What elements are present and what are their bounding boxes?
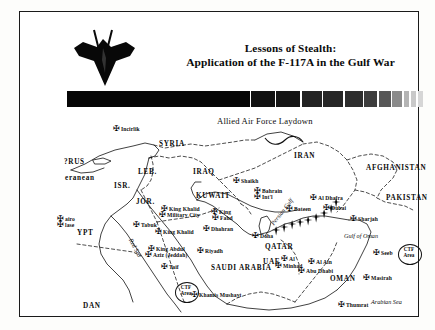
country-label: QATAR (265, 243, 293, 251)
airbase-label: Sharjah (358, 216, 378, 222)
airbase-label: Al (289, 256, 295, 262)
airbase-marker-icon: ✠ (338, 301, 345, 309)
ctf-area-label-line2: Area (400, 253, 418, 259)
ctf-area-label-line2: Area (177, 291, 195, 297)
airbase-label: Seeb (381, 250, 393, 256)
country-label: ?RUS (64, 158, 85, 166)
airbase-marker-icon: ✠ (155, 228, 162, 236)
airbase-marker-icon: ✠ (350, 215, 357, 223)
airbase-label: Fahd (220, 215, 233, 221)
gradient-segment (379, 91, 391, 107)
country-label: SAUDI ARABIA (211, 264, 272, 272)
airbase-label: Dubai (331, 205, 346, 211)
airbase-label: Riyadh (205, 248, 223, 254)
airbase-label: Al Dhafra (318, 195, 343, 201)
airbase-label: Khamis Mushayt (199, 292, 242, 298)
airbase-label: Al Ain (316, 259, 332, 265)
airbase-label: King Khalid (163, 229, 194, 235)
airbase-label: Masirah (371, 275, 392, 281)
airbase-marker-icon: ✠ (310, 194, 317, 202)
airbase-marker-icon: ✠ (145, 251, 152, 259)
map-heading: Allied Air Force Laydown (217, 116, 313, 126)
airbase-label: Aziz (Jeddah) (153, 252, 187, 258)
gradient-segment (276, 91, 300, 107)
gradient-segment (302, 91, 322, 107)
gradient-segment (411, 91, 416, 107)
ctf-area-label: CTFArea (177, 285, 195, 296)
airbase-label: lase (65, 222, 74, 228)
water-label: Gulf of Oman (344, 232, 378, 239)
airbase-marker-icon: ✠ (57, 221, 64, 229)
airbase-marker-icon: ✠ (212, 214, 219, 222)
airbase-marker-icon: ✠ (373, 249, 380, 257)
airbase-marker-icon: ✠ (252, 232, 259, 240)
airbase-label: Shaikh (241, 178, 258, 184)
country-label: OMAN (330, 275, 356, 283)
airbase-marker-icon: ✠ (203, 225, 210, 233)
airbase-marker-icon: ✠ (298, 267, 305, 275)
gradient-segment (392, 91, 402, 107)
country-label: IRAQ (193, 168, 215, 176)
airbase-marker-icon: ✠ (363, 274, 370, 282)
airbase-label: Thumrat (346, 302, 368, 308)
airbase-label: Abu Dhabi (306, 268, 333, 274)
airbase-marker-icon: ✠ (286, 205, 293, 213)
airbase-marker-icon: ✠ (308, 258, 315, 266)
airbase-marker-icon: ✠ (133, 221, 140, 229)
airbase-marker-icon: ✠ (233, 177, 240, 185)
airbase-marker-icon: ✠ (159, 211, 166, 219)
country-label: SYRIA (159, 140, 185, 148)
country-label: KUWAIT (196, 192, 230, 200)
grayscale-gradient-bar (67, 91, 423, 107)
airbase-marker-icon: ✠ (161, 263, 168, 271)
gradient-segment (251, 91, 275, 107)
gradient-segment (323, 91, 343, 107)
airbase-marker-icon: ✠ (113, 125, 120, 133)
country-label: ISR. (114, 182, 131, 190)
title-line-1: Lessons of Stealth: (148, 42, 433, 56)
country-label: JOR. (136, 198, 155, 206)
country-label: AFGHANISTAN (366, 164, 426, 172)
f117-nighthawk-silhouette-icon (64, 28, 142, 88)
airbase-marker-icon: ✠ (197, 247, 204, 255)
country-label: LEB. (138, 168, 157, 176)
ctf-area-label: CTFArea (400, 247, 418, 258)
country-label: IRAN (294, 152, 315, 160)
slide-border: Lessons of Stealth: Application of the F… (19, 11, 419, 317)
airbase-marker-icon: ✠ (281, 255, 288, 263)
gradient-segment (364, 91, 377, 107)
airbase-marker-icon: ✠ (275, 262, 282, 270)
airbase-label: Incirlik (121, 126, 140, 132)
gradient-segment (418, 91, 423, 107)
airbase-label: Bateen (294, 206, 311, 212)
country-label: DAN (83, 302, 101, 310)
water-label: Arabian Sea (371, 298, 402, 305)
country-label: PAKISTAN (386, 194, 428, 202)
airbase-label: Taif (169, 264, 179, 270)
gradient-segment (67, 91, 250, 107)
slide-canvas: Lessons of Stealth: Application of the F… (0, 0, 435, 330)
country-label: eranean (65, 174, 95, 182)
gradient-segment (404, 91, 409, 107)
airbase-label: Int'l (262, 194, 273, 200)
airbase-label: Military City (167, 212, 200, 218)
title-line-2: Application of the F-117A in the Gulf Wa… (148, 56, 433, 70)
middle-east-map: Allied Air Force Laydown SYRIAIRAQIRANAF… (41, 112, 435, 327)
airbase-marker-icon: ✠ (254, 193, 261, 201)
airbase-label: Doha (260, 233, 273, 239)
airbase-label: Dhahran (211, 226, 233, 232)
country-label: YPT (77, 229, 93, 237)
gradient-segment (345, 91, 363, 107)
page-title: Lessons of Stealth: Application of the F… (148, 42, 433, 69)
airbase-marker-icon: ✠ (323, 204, 330, 212)
